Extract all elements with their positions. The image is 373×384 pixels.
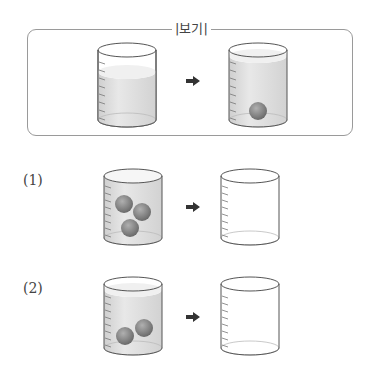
right-arrow-icon bbox=[186, 202, 200, 212]
ball bbox=[249, 102, 267, 120]
ball bbox=[133, 203, 151, 221]
beaker-problem-2-before bbox=[102, 274, 164, 358]
ball bbox=[116, 327, 134, 345]
example-box-label: |보기| bbox=[172, 20, 211, 38]
right-arrow-icon bbox=[186, 76, 200, 86]
beaker-problem-1-after bbox=[219, 166, 281, 248]
right-arrow-icon bbox=[186, 312, 200, 322]
beaker-problem-2-after bbox=[219, 274, 281, 358]
problem-2-label: (2) bbox=[23, 280, 43, 296]
beaker-example-before bbox=[96, 40, 158, 130]
ball bbox=[121, 219, 139, 237]
problem-1-label: (1) bbox=[23, 172, 43, 188]
ball bbox=[135, 319, 153, 337]
beaker-problem-1-before bbox=[102, 166, 164, 248]
ball bbox=[115, 195, 133, 213]
beaker-example-after bbox=[227, 40, 289, 130]
